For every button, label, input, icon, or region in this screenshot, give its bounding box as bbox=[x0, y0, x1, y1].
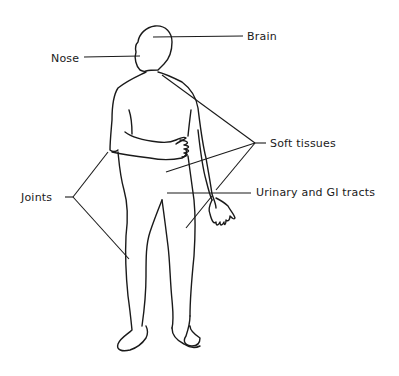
leader-soft-tissues-abdomen bbox=[166, 143, 255, 172]
leader-urinary-gi-lower bbox=[186, 196, 212, 228]
chest-line-left bbox=[129, 110, 132, 134]
head-outline bbox=[135, 26, 172, 71]
right-arm-inner bbox=[198, 130, 212, 200]
left-forearm-outline bbox=[125, 132, 186, 144]
inner-left-leg bbox=[142, 200, 162, 326]
label-nose: Nose bbox=[51, 53, 79, 64]
leader-joints-elbow bbox=[73, 152, 108, 197]
label-brain: Brain bbox=[247, 31, 277, 42]
diagram-canvas: Brain Nose Soft tissues Joints Urinary a… bbox=[0, 0, 399, 376]
left-forearm-lower-outline bbox=[112, 150, 187, 160]
right-foot bbox=[172, 328, 200, 347]
label-joints: Joints bbox=[21, 192, 52, 203]
left-hand-fingers bbox=[180, 140, 189, 157]
outer-right-leg bbox=[184, 316, 200, 346]
leader-soft-tissues-shoulder bbox=[162, 75, 255, 143]
leader-brain bbox=[153, 36, 243, 37]
inner-right-leg bbox=[162, 200, 173, 328]
label-soft-tissues: Soft tissues bbox=[270, 138, 336, 149]
leader-joints-knee bbox=[73, 197, 129, 259]
leader-soft-tissues-wrist bbox=[216, 143, 255, 190]
leader-nose bbox=[84, 56, 140, 57]
label-urinary-gi-tracts: Urinary and GI tracts bbox=[256, 187, 375, 198]
right-hand bbox=[209, 198, 235, 225]
torso-right-side bbox=[188, 156, 195, 316]
chest-line-right bbox=[188, 110, 191, 136]
